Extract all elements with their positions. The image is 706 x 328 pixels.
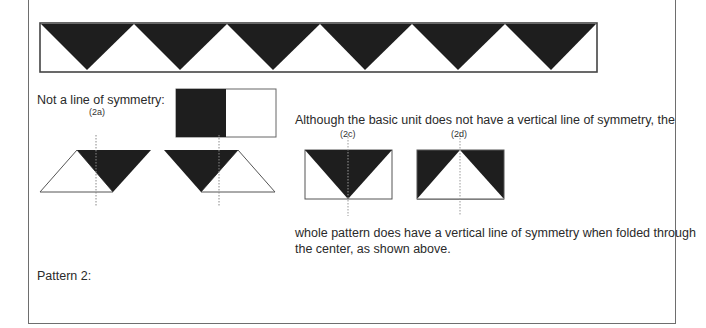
shape-2d <box>417 132 504 215</box>
label-2d: (2d) <box>451 129 467 139</box>
although-text: Although the basic unit does not have a … <box>295 113 675 127</box>
shape-2c <box>305 134 392 216</box>
basic-unit <box>176 89 276 137</box>
label-2a: (2a) <box>89 107 105 117</box>
not-symmetry-text: Not a line of symmetry: <box>37 93 165 107</box>
shape-2b <box>164 135 275 206</box>
whole-pattern-text-line2: the center, as shown above. <box>295 242 451 256</box>
label-2c: (2c) <box>340 129 356 139</box>
banner-pattern <box>40 23 597 72</box>
diagram-canvas <box>0 0 706 328</box>
whole-pattern-text-line1: whole pattern does have a vertical line … <box>295 226 696 240</box>
pattern-2-heading: Pattern 2: <box>37 269 91 283</box>
shape-2a <box>40 135 151 206</box>
